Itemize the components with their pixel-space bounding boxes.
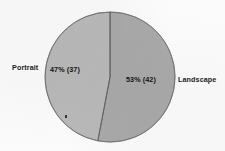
slice-value-portrait: 47% (37) [50,66,80,73]
pie-slice-portrait[interactable] [45,12,110,141]
slice-label-landscape: Landscape [178,76,216,83]
slice-value-landscape: 53% (42) [126,76,156,83]
slice-label-portrait: Portrait [12,64,38,71]
pie-chart: Portrait Landscape 47% (37) 53% (42) [0,0,225,151]
